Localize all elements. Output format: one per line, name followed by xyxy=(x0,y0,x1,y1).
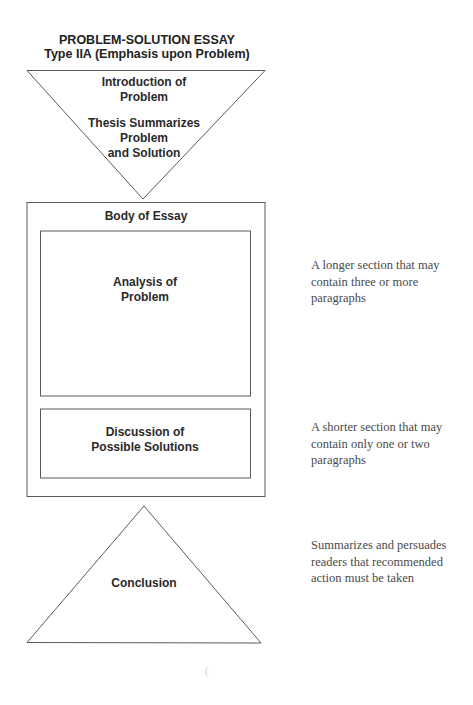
analysis-box xyxy=(41,231,251,396)
thesis-line-3: and Solution xyxy=(44,146,244,161)
title-line-1: PROBLEM-SOLUTION ESSAY xyxy=(27,33,267,47)
scan-artifact-mark: ( xyxy=(205,664,209,679)
solutions-note-line-3: paragraphs xyxy=(311,452,471,469)
solutions-line-2: Possible Solutions xyxy=(40,440,250,455)
conclusion-note-line-1: Summarizes and persuades xyxy=(311,537,471,554)
analysis-note: A longer section that may contain three … xyxy=(311,257,471,307)
conclusion-note: Summarizes and persuades readers that re… xyxy=(311,537,471,587)
introduction-line-1: Introduction of xyxy=(44,75,244,90)
problem-solution-diagram: PROBLEM-SOLUTION ESSAY Type IIA (Emphasi… xyxy=(0,0,473,705)
introduction-label: Introduction of Problem xyxy=(44,75,244,105)
analysis-note-line-1: A longer section that may xyxy=(311,257,471,274)
analysis-note-line-3: paragraphs xyxy=(311,290,471,307)
solutions-note-line-2: contain only one or two xyxy=(311,436,471,453)
conclusion-note-line-3: action must be taken xyxy=(311,570,471,587)
solutions-note: A shorter section that may contain only … xyxy=(311,419,471,469)
thesis-line-2: Problem xyxy=(44,131,244,146)
thesis-line-1: Thesis Summarizes xyxy=(44,116,244,131)
diagram-title: PROBLEM-SOLUTION ESSAY Type IIA (Emphasi… xyxy=(27,33,267,61)
analysis-label: Analysis of Problem xyxy=(40,275,250,305)
title-line-2: Type IIA (Emphasis upon Problem) xyxy=(27,47,267,61)
conclusion-triangle xyxy=(27,506,261,643)
solutions-line-1: Discussion of xyxy=(40,425,250,440)
diagram-shapes xyxy=(0,0,473,705)
analysis-line-1: Analysis of xyxy=(40,275,250,290)
conclusion-note-line-2: readers that recommended xyxy=(311,554,471,571)
analysis-note-line-2: contain three or more xyxy=(311,274,471,291)
body-of-essay-label: Body of Essay xyxy=(27,209,265,224)
solutions-label: Discussion of Possible Solutions xyxy=(40,425,250,455)
thesis-label: Thesis Summarizes Problem and Solution xyxy=(44,116,244,161)
solutions-note-line-1: A shorter section that may xyxy=(311,419,471,436)
introduction-line-2: Problem xyxy=(44,90,244,105)
conclusion-label: Conclusion xyxy=(27,576,261,591)
analysis-line-2: Problem xyxy=(40,290,250,305)
